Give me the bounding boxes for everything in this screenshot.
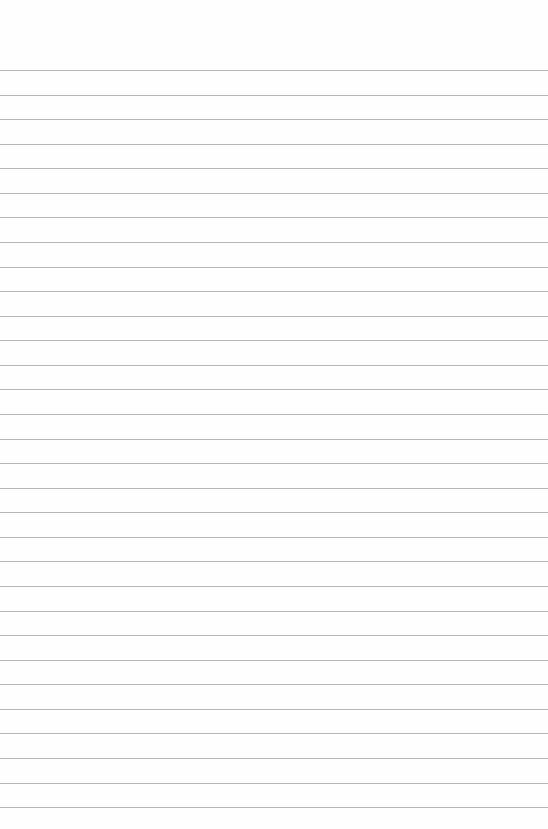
ruled-line: [0, 119, 548, 120]
ruled-line: [0, 144, 548, 145]
ruled-line: [0, 168, 548, 169]
ruled-line: [0, 316, 548, 317]
ruled-line: [0, 733, 548, 734]
ruled-line: [0, 340, 548, 341]
ruled-line: [0, 463, 548, 464]
ruled-line: [0, 365, 548, 366]
ruled-line: [0, 758, 548, 759]
ruled-line: [0, 389, 548, 390]
ruled-line: [0, 586, 548, 587]
ruled-line: [0, 512, 548, 513]
ruled-line: [0, 267, 548, 268]
ruled-line: [0, 611, 548, 612]
ruled-line: [0, 537, 548, 538]
ruled-line: [0, 291, 548, 292]
ruled-line: [0, 193, 548, 194]
ruled-line: [0, 217, 548, 218]
ruled-line: [0, 783, 548, 784]
ruled-line: [0, 635, 548, 636]
ruled-line: [0, 709, 548, 710]
ruled-line: [0, 488, 548, 489]
ruled-line: [0, 807, 548, 808]
ruled-line: [0, 561, 548, 562]
ruled-line: [0, 660, 548, 661]
ruled-line: [0, 70, 548, 71]
lined-paper-sheet: [0, 0, 548, 829]
ruled-line: [0, 684, 548, 685]
ruled-line: [0, 242, 548, 243]
ruled-line: [0, 95, 548, 96]
ruled-line: [0, 439, 548, 440]
ruled-line: [0, 414, 548, 415]
